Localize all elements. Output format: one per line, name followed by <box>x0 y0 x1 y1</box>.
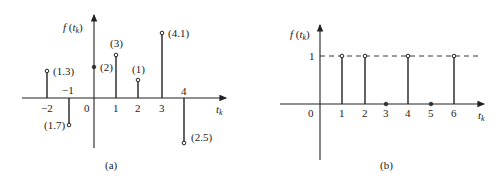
y-tick-label: 1 <box>309 50 315 62</box>
x-tick-label: 4 <box>405 107 411 119</box>
point-label: (3) <box>110 37 123 50</box>
x-tick-label: 6 <box>451 107 457 119</box>
x-tick-label: 2 <box>362 107 368 119</box>
data-point <box>160 31 164 35</box>
data-point <box>67 123 71 127</box>
chart-a: f (tk) tk −2 −1 0 1 2 3 4 (1.3) (1.7) (2… <box>22 15 226 172</box>
x-tick-label: −1 <box>62 84 74 96</box>
x-tick-label: −2 <box>41 102 53 114</box>
data-point <box>429 102 433 106</box>
y-axis-label: f (tk) <box>290 28 310 42</box>
data-point <box>340 54 344 58</box>
data-point <box>45 69 49 73</box>
x-tick-label: 1 <box>113 102 119 114</box>
x-tick-label: 3 <box>159 102 165 114</box>
x-tick-label: 0 <box>84 102 90 114</box>
point-label: (2) <box>100 61 113 74</box>
x-axis-label: tk <box>216 103 223 117</box>
caption-a: (a) <box>105 159 118 172</box>
x-tick-label: 5 <box>428 107 434 119</box>
figure: f (tk) tk −2 −1 0 1 2 3 4 (1.3) (1.7) (2… <box>0 0 503 187</box>
x-axis-label: tk <box>478 109 485 123</box>
point-label: (4.1) <box>168 27 189 40</box>
data-point <box>452 54 456 58</box>
x-tick-label: 1 <box>339 107 345 119</box>
data-point <box>182 141 186 145</box>
data-point <box>363 54 367 58</box>
data-point <box>114 53 118 57</box>
caption-b: (b) <box>380 159 393 172</box>
point-label: (1) <box>132 63 145 76</box>
x-tick-label: 2 <box>135 102 141 114</box>
y-axis-label: f (tk) <box>63 21 83 35</box>
data-point <box>92 65 96 69</box>
data-point <box>406 54 410 58</box>
point-label: (1.7) <box>44 119 65 132</box>
x-tick-label: 4 <box>181 85 187 97</box>
x-tick-label: 0 <box>308 107 314 119</box>
data-point <box>136 78 140 82</box>
point-label: (1.3) <box>53 65 74 78</box>
data-point <box>384 102 388 106</box>
x-tick-label: 3 <box>383 107 389 119</box>
chart-b: f (tk) tk 1 0 1 2 3 4 5 6 (b) <box>280 25 485 172</box>
point-label: (2.5) <box>191 131 212 144</box>
